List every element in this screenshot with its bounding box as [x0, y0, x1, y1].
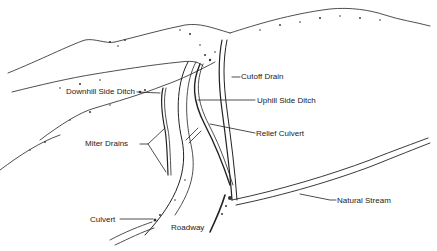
label-uphill-side-ditch: Uphill Side Ditch: [257, 96, 316, 105]
label-miter-drains: Miter Drains: [85, 139, 128, 148]
label-cutoff-drain: Cutoff Drain: [241, 72, 284, 81]
drainage-diagram: Downhill Side Ditch Cutoff Drain Uphill …: [0, 0, 437, 251]
label-relief-culvert: Relief Culvert: [256, 129, 304, 138]
stipple-texture: [29, 15, 381, 221]
diagram-drawing: [0, 0, 437, 251]
label-natural-stream: Natural Stream: [337, 196, 391, 205]
label-culvert: Culvert: [90, 215, 115, 224]
label-downhill-side-ditch: Downhill Side Ditch: [66, 87, 135, 96]
label-roadway: Roadway: [171, 223, 204, 232]
